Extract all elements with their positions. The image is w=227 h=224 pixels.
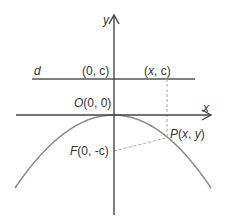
directrix-label: d <box>34 64 41 78</box>
origin-label: O(0, 0) <box>74 96 111 110</box>
dashed-focus-line <box>114 138 166 151</box>
directrix-point-left: (0, c) <box>82 64 109 78</box>
x-axis-label: x <box>202 101 210 115</box>
parabola-diagram: y x d (0, c) (x, c) O(0, 0) F(0, -c) P(x… <box>0 0 227 224</box>
parabola-curve <box>15 115 211 188</box>
point-p-label: P(x, y) <box>170 127 205 141</box>
focus-label: F(0, -c) <box>70 144 109 158</box>
directrix-point-right: (x, c) <box>144 64 171 78</box>
y-axis-label: y <box>102 13 110 27</box>
